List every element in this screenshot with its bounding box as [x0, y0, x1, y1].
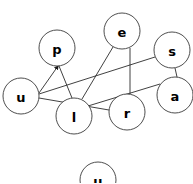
- node-a[interactable]: a: [157, 77, 193, 113]
- node-l[interactable]: l: [56, 98, 92, 134]
- node-s[interactable]: s: [154, 32, 190, 68]
- node-p[interactable]: p: [39, 30, 75, 66]
- edge-e-l: [82, 47, 113, 99]
- node-label: r: [124, 106, 131, 121]
- node-r[interactable]: r: [109, 94, 145, 130]
- node-u-left[interactable]: u: [3, 78, 39, 114]
- node-label: l: [72, 110, 76, 125]
- edge-s-a: [175, 68, 177, 77]
- node-e[interactable]: e: [104, 13, 140, 49]
- graph-diagram: u p e s a l: [0, 0, 193, 183]
- node-label: p: [52, 42, 61, 57]
- node-label: u: [93, 174, 102, 184]
- node-label: s: [168, 44, 176, 59]
- node-label: u: [16, 90, 25, 105]
- node-u-bottom[interactable]: u: [80, 162, 116, 183]
- node-label: e: [118, 25, 127, 40]
- node-label: a: [171, 89, 180, 104]
- edge-p-l: [59, 66, 72, 98]
- node-layer: u p e s a l: [3, 13, 193, 183]
- graph-canvas: u p e s a l: [0, 0, 193, 183]
